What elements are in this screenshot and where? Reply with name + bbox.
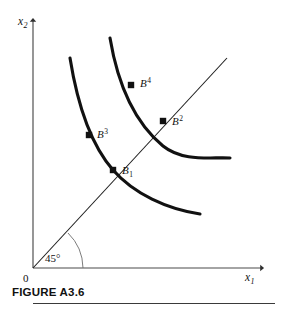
point-B4-label-base: B — [140, 77, 147, 89]
plot-canvas: B1B2B3B4 x2 x1 0 45° — [0, 0, 288, 319]
point-B1-label-subscript: 1 — [129, 170, 133, 179]
point-B3-label-base: B — [97, 128, 104, 140]
point-B3-marker — [86, 132, 92, 138]
point-B1-label: B1 — [122, 164, 133, 179]
point-B4-label: B4 — [140, 76, 151, 89]
caption-divider — [33, 303, 275, 304]
figure-a3-6: B1B2B3B4 x2 x1 0 45° FIGURE A3.6 — [0, 0, 288, 319]
point-B2-label: B2 — [172, 114, 183, 127]
point-B4-label-supscript: 4 — [147, 76, 151, 85]
point-B2-label-supscript: 2 — [179, 114, 183, 123]
point-markers: B1B2B3B4 — [86, 76, 183, 179]
angle-arc-45 — [68, 233, 83, 268]
figure-caption: FIGURE A3.6 — [12, 286, 85, 298]
angle-label-45-degrees: 45° — [45, 252, 60, 264]
y-axis-label-subscript: 2 — [24, 21, 28, 30]
x-axis-label-subscript: 1 — [251, 277, 255, 286]
point-B2-marker — [160, 118, 166, 124]
point-B2-label-base: B — [172, 115, 179, 127]
x-axis-label: x1 — [244, 271, 255, 286]
point-B4-marker — [128, 82, 134, 88]
point-B1-marker — [110, 167, 116, 173]
45-degree-ray — [33, 58, 227, 268]
point-B1-label-base: B — [122, 164, 129, 176]
upper-indifference-curve — [110, 38, 230, 158]
y-axis-label: x2 — [17, 15, 28, 30]
origin-label: 0 — [23, 272, 29, 284]
point-B3-label: B3 — [97, 127, 108, 140]
point-B3-label-supscript: 3 — [104, 127, 108, 136]
indifference-curves — [70, 38, 230, 214]
